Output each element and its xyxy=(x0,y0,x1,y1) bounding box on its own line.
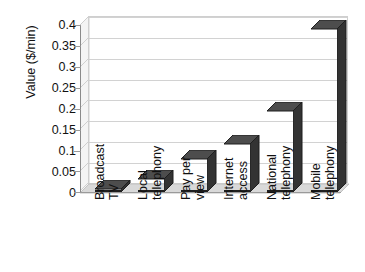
x-category-label-line1: National xyxy=(266,146,280,200)
x-category-label-pay-per-view: Pay per view xyxy=(180,157,207,200)
x-category-label-line1: Pay per xyxy=(180,157,194,200)
y-tick-mark xyxy=(74,67,81,68)
plot-area: Broadcast TV Local telephony Pay per vie… xyxy=(0,0,365,272)
y-tick-mark xyxy=(74,25,81,26)
bar-side-face xyxy=(121,180,130,192)
gridline xyxy=(88,100,347,101)
y-tick-mark xyxy=(74,171,81,172)
bar-side-face xyxy=(337,20,346,192)
bar-chart: Value ($/min) 0.4 0.35 0.3 0.25 0.2 0.15… xyxy=(0,0,365,272)
x-category-label-local-telephony: Local telephony xyxy=(137,146,164,200)
x-category-label-line1: Broadcast xyxy=(94,144,108,200)
gridline xyxy=(88,121,347,122)
x-category-label-line2: TV xyxy=(108,144,122,200)
bar-side-face xyxy=(250,135,259,192)
bar-side-face xyxy=(293,102,302,192)
gridline xyxy=(88,17,347,18)
gridline xyxy=(88,38,347,39)
x-category-label-line2: telephony xyxy=(324,146,338,200)
x-category-label-line2: telephony xyxy=(280,146,294,200)
x-category-label-broadcast-tv: Broadcast TV xyxy=(94,144,121,200)
gridline xyxy=(88,59,347,60)
x-category-label-line1: Mobile xyxy=(310,146,324,200)
x-category-label-national-telephony: National telephony xyxy=(266,146,293,200)
chart-back-wall xyxy=(88,16,348,183)
y-tick-mark xyxy=(74,130,81,131)
x-category-label-line2: access xyxy=(237,158,251,200)
gridline xyxy=(88,142,347,143)
y-tick-mark xyxy=(74,88,81,89)
y-tick-mark xyxy=(74,109,81,110)
y-tick-mark xyxy=(74,151,81,152)
y-tick-mark xyxy=(74,192,81,193)
x-category-label-line2: view xyxy=(194,157,208,200)
y-axis-back-line xyxy=(88,16,89,184)
x-category-label-line2: telephony xyxy=(151,146,165,200)
x-category-label-mobile-telephony: Mobile telephony xyxy=(310,146,337,200)
gridline xyxy=(88,80,347,81)
x-category-label-internet-access: Internet access xyxy=(223,158,250,200)
x-category-label-line1: Local xyxy=(137,146,151,200)
y-tick-mark xyxy=(74,46,81,47)
bar-side-face xyxy=(164,170,173,192)
x-category-label-line1: Internet xyxy=(223,158,237,200)
bar-side-face xyxy=(207,150,216,192)
